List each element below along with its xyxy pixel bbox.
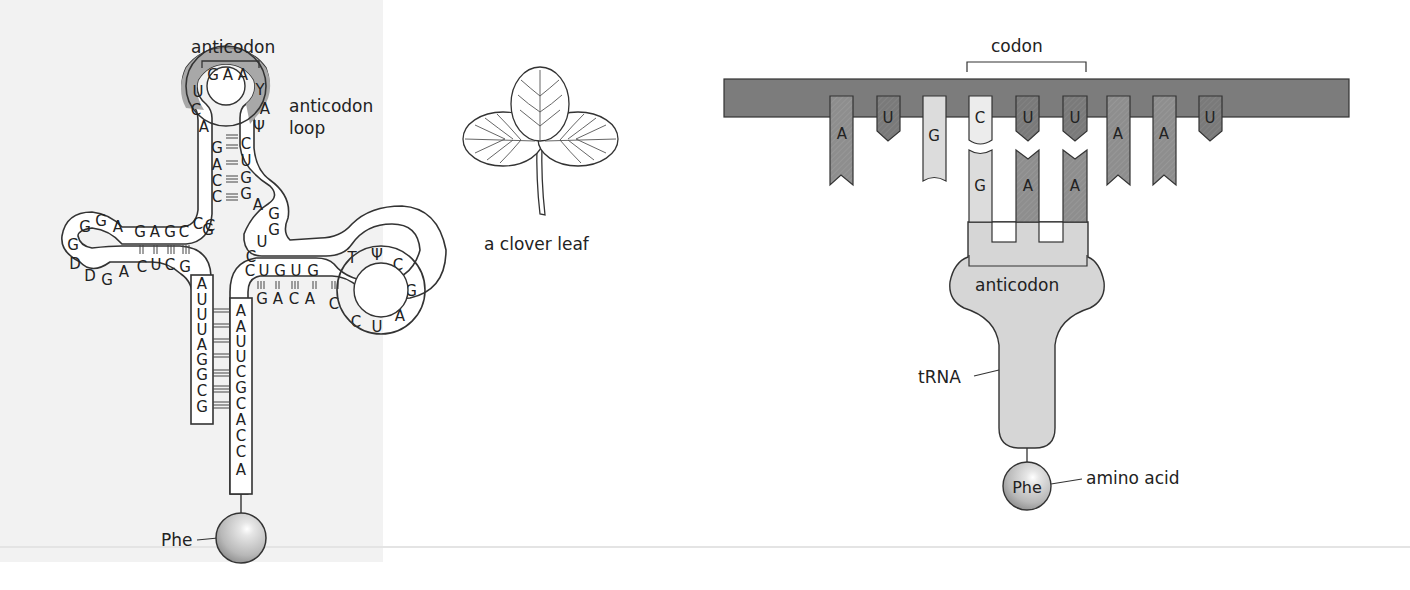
t-loop-hole xyxy=(354,263,408,317)
svg-text:G: G xyxy=(101,271,113,289)
codon-label: codon xyxy=(991,36,1043,56)
phe-amino-acid-ball xyxy=(216,513,266,563)
svg-text:G: G xyxy=(211,139,223,157)
svg-text:A: A xyxy=(1023,177,1034,195)
svg-text:C: C xyxy=(191,101,201,119)
amino-acid-label: amino acid xyxy=(1086,468,1180,488)
anticodon-label-right: anticodon xyxy=(975,275,1059,295)
svg-text:G: G xyxy=(207,66,219,84)
codon-bracket xyxy=(967,62,1086,72)
trna-cloverleaf: anticodon anticodon loop U G A A Y A Ψ C… xyxy=(62,37,446,563)
svg-text:G: G xyxy=(240,185,252,203)
svg-text:A: A xyxy=(119,263,130,281)
svg-text:A: A xyxy=(223,66,234,84)
svg-text:C: C xyxy=(165,256,175,274)
trna-leader-line xyxy=(974,370,999,376)
svg-text:U: U xyxy=(1070,109,1081,127)
svg-text:C: C xyxy=(179,223,189,241)
svg-text:U: U xyxy=(883,109,894,127)
svg-text:C: C xyxy=(212,188,222,206)
svg-text:C: C xyxy=(245,262,255,280)
svg-text:G: G xyxy=(95,212,107,230)
anticodon-stem: G A C C C C U G G xyxy=(205,135,252,235)
svg-text:A: A xyxy=(199,118,210,136)
anticodon-loop-label-line1: anticodon xyxy=(289,96,373,116)
svg-text:U: U xyxy=(259,262,270,280)
svg-text:Ψ: Ψ xyxy=(371,246,383,264)
svg-text:A: A xyxy=(238,66,249,84)
clover-leaf-caption: a clover leaf xyxy=(484,234,590,254)
svg-text:G: G xyxy=(202,221,214,239)
codon-anticodon-diagram: anticodon G A A A U G C U xyxy=(724,36,1349,510)
svg-text:C: C xyxy=(289,290,299,308)
svg-text:G: G xyxy=(79,218,91,236)
svg-text:C: C xyxy=(975,109,985,127)
svg-text:A: A xyxy=(113,218,124,236)
trna-slot-1 xyxy=(992,222,1016,242)
svg-text:A: A xyxy=(1159,125,1170,143)
svg-text:U: U xyxy=(193,83,204,101)
acceptor-stem: A U U U A G G C G A A U U C G C A C C A xyxy=(191,275,252,494)
svg-text:U: U xyxy=(1205,109,1216,127)
svg-text:D: D xyxy=(84,267,96,285)
phe-label: Phe xyxy=(161,530,193,550)
svg-text:G: G xyxy=(179,258,191,276)
svg-text:Y: Y xyxy=(254,81,265,99)
svg-text:G: G xyxy=(196,398,208,416)
svg-text:G: G xyxy=(307,262,319,280)
phe-leader-line xyxy=(197,538,218,540)
svg-text:C: C xyxy=(241,135,251,153)
trna-slot-2 xyxy=(1039,222,1063,242)
anticodon-label: anticodon xyxy=(191,37,275,57)
svg-text:G: G xyxy=(256,290,268,308)
diagram-canvas: anticodon anticodon loop U G A A Y A Ψ C… xyxy=(0,0,1410,590)
trna-label: tRNA xyxy=(918,367,961,387)
svg-text:U: U xyxy=(257,233,268,251)
svg-text:G: G xyxy=(134,223,146,241)
svg-text:A: A xyxy=(1113,125,1124,143)
svg-text:A: A xyxy=(260,100,271,118)
amino-acid-phe-label: Phe xyxy=(1012,478,1042,497)
svg-text:Ψ: Ψ xyxy=(253,118,265,136)
anticodon-loop-label-line2: loop xyxy=(289,118,325,138)
svg-text:A: A xyxy=(1070,177,1081,195)
svg-text:U: U xyxy=(1023,109,1034,127)
svg-text:A: A xyxy=(150,223,161,241)
svg-text:D: D xyxy=(69,255,81,273)
svg-text:A: A xyxy=(837,125,848,143)
svg-text:G: G xyxy=(974,177,986,195)
svg-text:C: C xyxy=(236,443,246,461)
amino-acid-leader-line xyxy=(1051,479,1082,484)
svg-text:G: G xyxy=(274,262,286,280)
svg-text:G: G xyxy=(164,223,176,241)
svg-text:A: A xyxy=(273,290,284,308)
svg-text:A: A xyxy=(253,196,264,214)
svg-text:U: U xyxy=(241,152,252,170)
svg-text:G: G xyxy=(268,221,280,239)
svg-text:A: A xyxy=(305,290,316,308)
trna-body-shape xyxy=(950,222,1104,448)
svg-text:U: U xyxy=(151,256,162,274)
svg-text:G: G xyxy=(67,236,79,254)
clover-leaf-illustration xyxy=(463,67,618,215)
svg-text:U: U xyxy=(291,262,302,280)
svg-text:A: A xyxy=(236,461,247,479)
svg-text:G: G xyxy=(928,127,940,145)
anticodon-bases: G A A xyxy=(969,150,1087,222)
svg-text:C: C xyxy=(137,258,147,276)
